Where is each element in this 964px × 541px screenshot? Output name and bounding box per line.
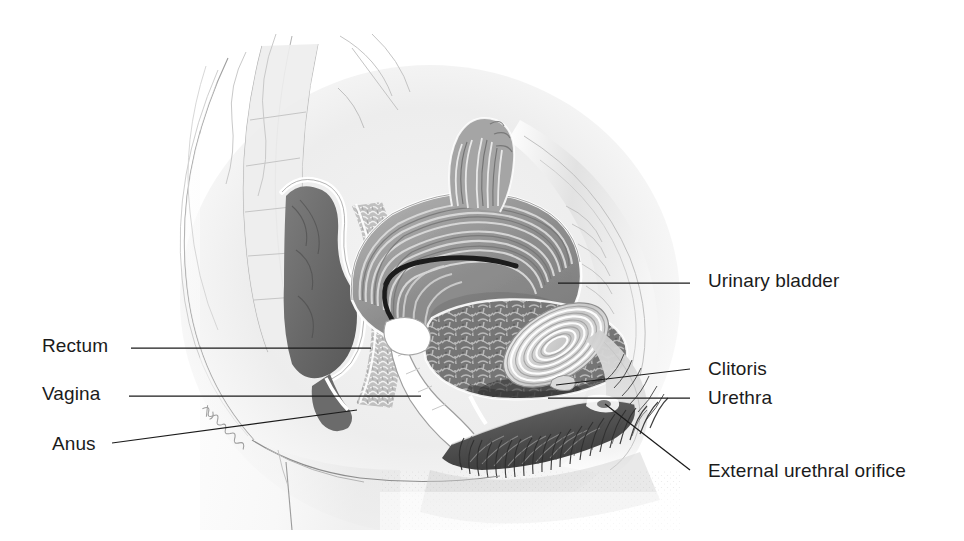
label-urethra: Urethra	[708, 388, 772, 407]
label-anus: Anus	[52, 434, 96, 453]
anatomy-figure: Rectum Vagina Anus Urinary bladder Clito…	[0, 0, 964, 541]
label-vagina: Vagina	[42, 384, 100, 403]
label-urinary-bladder: Urinary bladder	[708, 271, 839, 290]
label-rectum: Rectum	[42, 336, 108, 355]
label-external-urethral-orifice: External urethral orifice	[708, 461, 906, 480]
label-clitoris: Clitoris	[708, 359, 767, 378]
